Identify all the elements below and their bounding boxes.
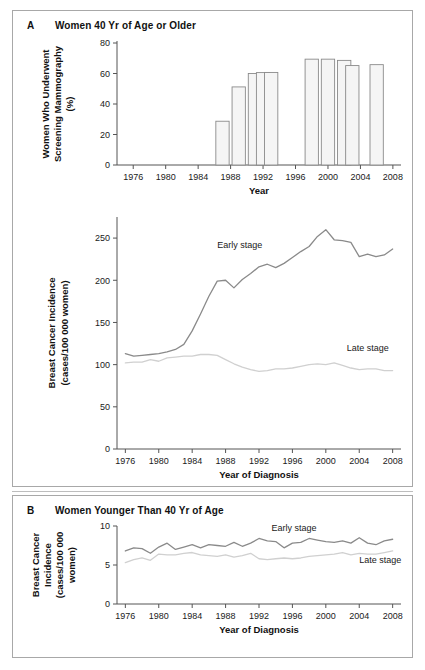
bar-x-tick-label: 1996: [285, 172, 305, 182]
bar-y-tick-label: 60: [100, 69, 110, 79]
bar-x-tick-label: 1984: [188, 172, 208, 182]
incidenceU40-x-tick-label: 1988: [216, 611, 236, 621]
bar-x-tick-label: 2004: [350, 172, 370, 182]
incidence-line-chart-40plus: 0501001502002501976198019841988199219962…: [13, 207, 412, 485]
incidence-line-chart-under40: 0510197619801984198819921996200020042008…: [13, 518, 412, 656]
incidence40-y-tick-label: 0: [105, 444, 110, 454]
incidenceU40-y-axis-title-line2: Incidence: [42, 543, 53, 587]
bar-y-tick-label: 20: [100, 130, 110, 140]
bar-y-tick-label: 40: [100, 99, 110, 109]
incidenceU40-series-late-stage: [125, 551, 392, 563]
incidenceU40-y-tick-label: 0: [105, 599, 110, 609]
incidence40-y-tick-label: 50: [100, 402, 110, 412]
incidence40-annotation-early-stage: Early stage: [217, 240, 262, 250]
incidence40-x-axis-title: Year of Diagnosis: [219, 469, 299, 480]
mammography-bar-chart: 0204060801976198019841988199219962000200…: [13, 33, 412, 208]
bar-2003: [346, 66, 359, 165]
incidenceU40-y-tick-label: 10: [100, 521, 110, 531]
incidenceU40-series-early-stage: [125, 538, 392, 554]
incidenceU40-annotation-late-stage: Late stage: [359, 555, 401, 565]
bar-x-tick-label: 1988: [221, 172, 241, 182]
bar-x-axis-title: Year: [249, 185, 269, 196]
bar-y-tick-label: 80: [100, 38, 110, 48]
panel-b-letter: B: [27, 505, 34, 516]
panel-a-title: Women 40 Yr of Age or Older: [55, 20, 196, 31]
incidenceU40-y-axis-title-line3: (cases/100 000: [54, 532, 65, 599]
incidence40-y-axis-title-line1: Breast Cancer Incidence: [46, 278, 57, 389]
incidence40-annotation-late-stage: Late stage: [347, 343, 389, 353]
bar-1989: [232, 87, 245, 165]
panel-b: B Women Younger Than 40 Yr of Age 051019…: [12, 495, 413, 658]
incidenceU40-y-axis-title-line1: Breast Cancer: [30, 532, 41, 597]
incidenceU40-x-axis-title: Year of Diagnosis: [219, 624, 299, 635]
incidence40-series-late-stage: [125, 355, 392, 372]
incidence40-y-tick-label: 250: [95, 233, 110, 243]
incidence40-x-tick-label: 1996: [282, 456, 302, 466]
incidence40-y-axis-title-line2: (cases/100 000 women): [59, 280, 70, 385]
incidence40-x-tick-label: 1980: [149, 456, 169, 466]
bar-x-tick-label: 1992: [253, 172, 273, 182]
incidenceU40-x-tick-label: 2000: [316, 611, 336, 621]
incidence40-y-tick-label: 100: [95, 360, 110, 370]
incidence40-x-tick-label: 1988: [216, 456, 236, 466]
panel-a-letter: A: [27, 20, 34, 31]
panel-b-title: Women Younger Than 40 Yr of Age: [55, 505, 224, 516]
incidence40-x-tick-label: 2008: [383, 456, 403, 466]
incidenceU40-x-tick-label: 1992: [249, 611, 269, 621]
bar-x-tick-label: 2008: [383, 172, 403, 182]
incidence40-x-tick-label: 1992: [249, 456, 269, 466]
bar-x-tick-label: 1976: [123, 172, 143, 182]
panel-a: A Women 40 Yr of Age or Older 0204060801…: [12, 10, 413, 487]
incidence40-x-tick-label: 1976: [115, 456, 135, 466]
incidenceU40-x-tick-label: 2008: [383, 611, 403, 621]
incidenceU40-x-tick-label: 2004: [349, 611, 369, 621]
bar-y-axis-title-line3: (%): [64, 97, 75, 112]
incidenceU40-x-tick-label: 1976: [115, 611, 135, 621]
bar-2006: [370, 65, 383, 165]
incidenceU40-y-axis-title-line4: women): [66, 547, 77, 584]
panel-divider: [12, 491, 413, 492]
incidence40-y-tick-label: 200: [95, 276, 110, 286]
bar-y-axis-title-line1: Women Who Underwent: [40, 49, 51, 159]
incidenceU40-x-tick-label: 1984: [182, 611, 202, 621]
incidenceU40-x-tick-label: 1996: [282, 611, 302, 621]
bar-y-tick-label: 0: [105, 160, 110, 170]
incidence40-x-tick-label: 2000: [316, 456, 336, 466]
incidence40-x-tick-label: 1984: [182, 456, 202, 466]
bar-y-axis-title-line2: Screening Mammography: [52, 45, 63, 162]
incidence40-x-tick-label: 2004: [349, 456, 369, 466]
bar-1998: [305, 59, 318, 165]
bar-1987: [216, 121, 229, 165]
incidenceU40-y-tick-label: 5: [105, 560, 110, 570]
bar-1993: [265, 72, 278, 165]
bar-2000: [321, 59, 334, 165]
figure-container: A Women 40 Yr of Age or Older 0204060801…: [0, 0, 425, 670]
bar-x-tick-label: 1980: [156, 172, 176, 182]
incidenceU40-x-tick-label: 1980: [149, 611, 169, 621]
bar-x-tick-label: 2000: [318, 172, 338, 182]
incidence40-y-tick-label: 150: [95, 318, 110, 328]
incidenceU40-annotation-early-stage: Early stage: [272, 523, 317, 533]
